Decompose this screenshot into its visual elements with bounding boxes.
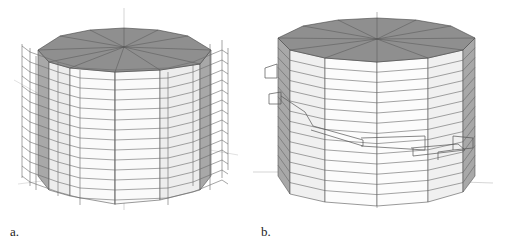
cylinder-helix-render-b [253, 0, 506, 243]
figure-panel-a: a. [0, 0, 253, 243]
cylinder-wireframe-render-a [0, 0, 253, 243]
panel-label-b: b. [261, 224, 271, 240]
figure-panel-b: b. [253, 0, 506, 243]
panel-label-a: a. [10, 224, 19, 240]
